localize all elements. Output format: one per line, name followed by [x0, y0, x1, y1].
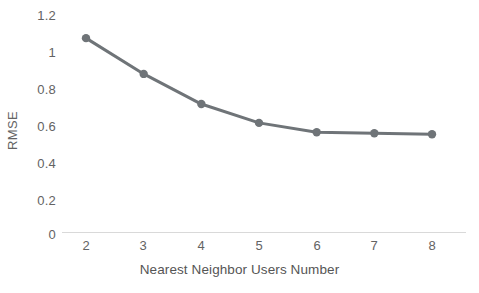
x-axis-tick-labels: 2 3 4 5 6 7 8	[62, 239, 466, 257]
x-tick-label-2: 2	[66, 239, 106, 253]
x-axis-line	[62, 232, 466, 233]
rmse-series-markers	[82, 34, 436, 138]
x-tick-label-3: 3	[123, 239, 163, 253]
data-point-marker	[197, 100, 205, 108]
data-point-marker	[255, 119, 263, 127]
x-tick-label-6: 6	[297, 239, 337, 253]
data-point-marker	[428, 130, 436, 138]
data-point-marker	[82, 34, 90, 42]
y-axis-title: RMSE	[6, 103, 19, 159]
y-tick-label-0-8: 0.8	[22, 83, 56, 96]
x-tick-label-5: 5	[239, 239, 279, 253]
data-point-marker	[370, 129, 378, 137]
x-tick-label-4: 4	[181, 239, 221, 253]
y-tick-label-0-6: 0.6	[22, 120, 56, 133]
y-tick-label-0: 0	[22, 228, 56, 241]
x-axis-title: Nearest Neighbor Users Number	[0, 262, 479, 278]
y-tick-label-1-2: 1.2	[22, 9, 56, 22]
data-point-marker	[312, 128, 320, 136]
y-axis-tick-labels: 1.2 1 0.8 0.6 0.4 0.2 0	[22, 0, 56, 293]
rmse-line-chart: RMSE 1.2 1 0.8 0.6 0.4 0.2 0 2 3 4 5 6 7…	[0, 0, 479, 293]
x-tick-label-8: 8	[412, 239, 452, 253]
x-tick-label-7: 7	[354, 239, 394, 253]
data-point-marker	[139, 70, 147, 78]
y-tick-label-1: 1	[22, 46, 56, 59]
y-tick-label-0-4: 0.4	[22, 157, 56, 170]
plot-area	[62, 8, 466, 234]
y-tick-label-0-2: 0.2	[22, 194, 56, 207]
series-plot	[62, 8, 466, 234]
